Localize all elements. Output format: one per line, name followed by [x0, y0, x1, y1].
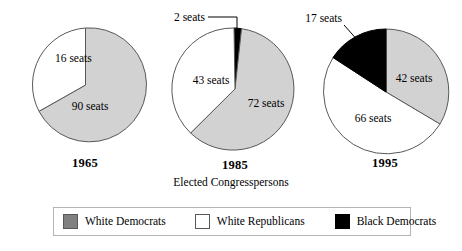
year-label-1965: 1965 — [45, 156, 125, 171]
pie-chart-1995: 17 seats 42 seats 66 seats — [305, 12, 449, 154]
year-label-1985: 1985 — [195, 158, 275, 173]
chart-caption: Elected Congresspersons — [0, 176, 462, 188]
pie1-label-white-democrats: 90 seats — [72, 100, 109, 112]
pie2-label-white-republicans: 43 seats — [193, 74, 230, 86]
pie1-label-white-republicans: 16 seats — [55, 52, 92, 64]
legend-item-black-democrats: Black Democrats — [335, 214, 437, 229]
legend-item-white-democrats: White Democrats — [63, 214, 166, 229]
pie3-label-white-republicans: 66 seats — [355, 112, 392, 124]
pie3-label-black-democrats: 17 seats — [305, 12, 342, 24]
pie-chart-1965: 16 seats 90 seats — [32, 28, 146, 142]
legend-label-white-republicans: White Republicans — [217, 216, 305, 228]
pie-chart-1985: 2 seats 43 seats 72 seats — [172, 11, 294, 150]
pie3-label-white-democrats: 42 seats — [396, 72, 433, 84]
legend-swatch-black-democrats — [335, 214, 350, 229]
legend-label-white-democrats: White Democrats — [85, 216, 166, 228]
figure-elected-congresspersons: 16 seats 90 seats 2 seats 43 seats 72 se… — [0, 0, 462, 251]
legend-item-white-republicans: White Republicans — [195, 214, 305, 229]
legend-label-black-democrats: Black Democrats — [357, 216, 437, 228]
legend-swatch-white-republicans — [195, 214, 210, 229]
legend-swatch-white-democrats — [63, 214, 78, 229]
year-label-1995: 1995 — [345, 156, 425, 171]
pie2-label-black-democrats: 2 seats — [174, 11, 206, 23]
legend: White Democrats White Republicans Black … — [53, 207, 411, 236]
pie2-label-white-democrats: 72 seats — [248, 97, 285, 109]
